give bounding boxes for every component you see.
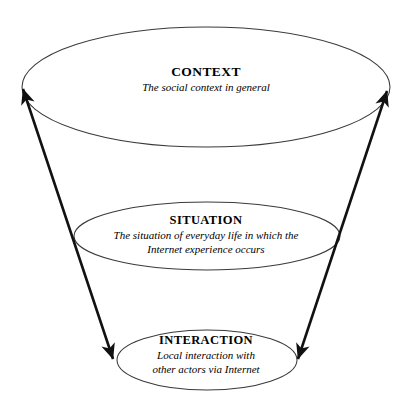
interaction-label-group: INTERACTION Local interaction with other… [0, 333, 412, 376]
interaction-caption-line-1: Local interaction with [0, 349, 412, 362]
situation-heading: SITUATION [0, 213, 412, 228]
situation-caption-line-1: The situation of everyday life in which … [0, 229, 412, 242]
situation-caption-line-2: Internet experience occurs [0, 243, 412, 256]
context-heading: CONTEXT [0, 64, 412, 80]
interaction-caption-line-2: other actors via Internet [0, 363, 412, 376]
diagram-canvas: CONTEXT The social context in general SI… [0, 0, 412, 410]
interaction-heading: INTERACTION [0, 333, 412, 348]
situation-label-group: SITUATION The situation of everyday life… [0, 213, 412, 256]
context-label-group: CONTEXT The social context in general [0, 64, 412, 94]
context-caption-line-1: The social context in general [0, 81, 412, 94]
